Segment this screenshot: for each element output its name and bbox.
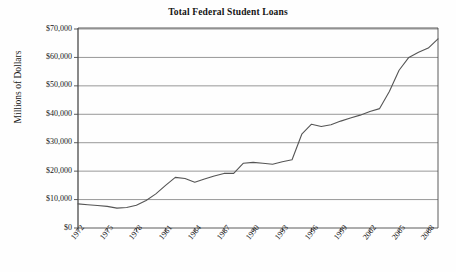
data-series-line bbox=[78, 39, 438, 208]
axis-ticks bbox=[74, 29, 428, 232]
chart-container: Total Federal Student Loans Millions of … bbox=[0, 0, 456, 272]
axes bbox=[78, 28, 438, 228]
gridlines bbox=[78, 29, 438, 200]
